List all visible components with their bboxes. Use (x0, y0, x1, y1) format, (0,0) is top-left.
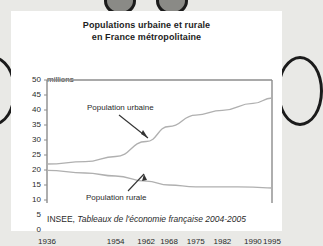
axes (47, 80, 272, 203)
source-prefix: INSEE, (47, 214, 77, 224)
x-tick-label: 1982 (209, 237, 235, 246)
chart-source-caption: INSEE, Tableaux de l'économie française … (11, 214, 282, 224)
chart-card: Populations urbaine et rurale en France … (11, 11, 282, 231)
series-line (47, 98, 272, 164)
data-series-layer (47, 98, 272, 188)
x-tick-label: 1936 (34, 237, 60, 246)
source-title: Tableaux de l'économie française 2004-20… (77, 214, 246, 224)
x-tick-label: 1968 (156, 237, 182, 246)
y-tick-label: 15 (25, 180, 41, 189)
series-line (47, 170, 272, 188)
annotation-population-rurale: Population rurale (86, 193, 146, 202)
chart-svg (11, 43, 282, 203)
annotation-population-urbaine: Population urbaine (87, 103, 154, 112)
decorative-arc-right (277, 56, 323, 126)
y-tick-label: 25 (25, 150, 41, 159)
y-tick-label: 10 (25, 195, 41, 204)
x-tick-label: 1975 (183, 237, 209, 246)
y-tick-label: 40 (25, 105, 41, 114)
y-tick-label: 45 (25, 90, 41, 99)
chart-title-line1: Populations urbaine et rurale (11, 19, 282, 31)
y-tick-label: 35 (25, 120, 41, 129)
chart-plot-area: millions Population urbaine Population r… (11, 43, 282, 203)
x-tick-label: 1995 (259, 237, 285, 246)
y-tick-label: 20 (25, 165, 41, 174)
chart-title-line2: en France métropolitaine (11, 31, 282, 43)
y-tick-label: 30 (25, 135, 41, 144)
y-tick-label: 50 (25, 75, 41, 84)
y-tick-label: 0 (25, 225, 41, 234)
x-tick-label: 1954 (103, 237, 129, 246)
chart-title: Populations urbaine et rurale en France … (11, 11, 282, 43)
